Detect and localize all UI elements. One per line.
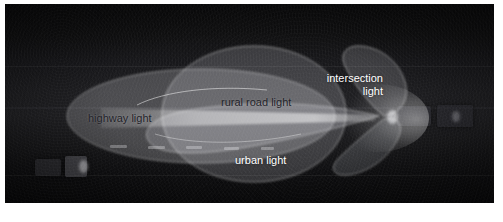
beam-pattern-overlay xyxy=(5,4,494,203)
figure-root: highway light rural road light intersect… xyxy=(0,0,503,222)
beam-pattern-svg xyxy=(5,4,494,203)
beam-convergence-glow xyxy=(325,84,429,152)
night-road-scene: highway light rural road light intersect… xyxy=(5,4,494,203)
